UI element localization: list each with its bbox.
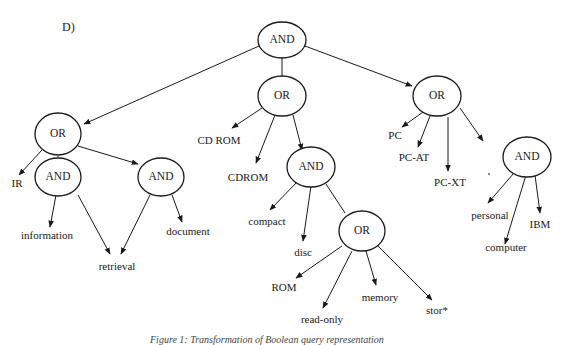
edge-orm-cdrom (256, 115, 275, 163)
edge-root-or-left (84, 46, 259, 124)
node-root-label: AND (270, 34, 295, 46)
leaf-computer: computer (485, 242, 527, 253)
edge-and-info-information (50, 195, 56, 227)
edge-orr2-pc (402, 112, 423, 127)
leaf-retrieval: retrieval (99, 261, 136, 272)
edge-andc-compact (270, 183, 296, 210)
edge-and-doc-document (172, 195, 182, 222)
node-and-info-label: AND (46, 171, 71, 183)
edge-orr2-pc-at (418, 116, 430, 147)
edge-andc-or-rom (326, 184, 345, 213)
edge-andc-disc (303, 186, 311, 241)
leaf-cdrom: CDROM (228, 172, 268, 183)
edge-andp-ibm (535, 175, 540, 213)
leaf-personal: personal (471, 210, 508, 221)
leaf-disc: disc (294, 247, 312, 258)
edge-andp-personal2 (488, 173, 514, 203)
edge-orr2-and-personal (460, 108, 483, 141)
leaf-information: information (21, 230, 73, 241)
edge-orm-and-compact (293, 115, 302, 150)
node-and-doc-label: AND (149, 171, 174, 183)
leaf-rom: ROM (271, 282, 296, 293)
leaf-pc-at: PC-AT (399, 152, 430, 163)
node-or-rom-label: OR (354, 225, 370, 237)
leaf-pc-xt: PC-XT (434, 177, 466, 188)
edge-orm-cd-rom (232, 108, 262, 128)
edge-orr-memory (366, 251, 376, 285)
leaf-document: document (166, 226, 209, 237)
leaf-read-only: read-only (301, 314, 343, 325)
leaf-ibm: IBM (530, 219, 551, 230)
edge-and-doc-retrieval (121, 195, 150, 254)
node-and-personal-label: AND (515, 151, 540, 163)
figure-caption: Figure 1: Transformation of Boolean quer… (150, 334, 384, 345)
node-or-right-label: OR (429, 90, 445, 102)
node-or-left-label: OR (50, 128, 66, 140)
leaf-ir: IR (12, 178, 23, 189)
node-or-mid-label: OR (274, 90, 290, 102)
leaf-pc: PC (388, 130, 401, 141)
leaf-memory: memory (362, 292, 399, 303)
leaf-cd-rom: CD ROM (197, 135, 240, 146)
node-and-compact-label: AND (299, 161, 324, 173)
leaf-stor: stor* (426, 305, 448, 316)
panel-label: D) (62, 20, 75, 35)
leaf-compact: compact (248, 216, 285, 227)
edge-orl-and-doc (78, 146, 138, 164)
edge-and-info-retrieval (78, 195, 110, 254)
edge-orr-read-only (323, 251, 352, 308)
edge-root-or-right (305, 46, 412, 86)
